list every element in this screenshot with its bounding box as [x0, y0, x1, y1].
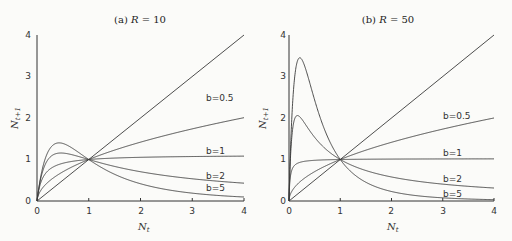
- label-b-5: b=5: [206, 183, 225, 193]
- curve-b-5: [289, 58, 494, 201]
- panel-b-y-ticks: 0 1 2 3 4: [280, 30, 286, 206]
- svg-text:4: 4: [280, 30, 286, 40]
- panel-a-y-label: Nt+1: [9, 107, 22, 130]
- svg-text:2: 2: [138, 206, 144, 216]
- svg-text:4: 4: [491, 206, 497, 216]
- svg-text:1: 1: [25, 154, 31, 164]
- panel-a-y-ticks: 0 1 2 3 4: [25, 30, 31, 206]
- svg-text:4: 4: [25, 30, 31, 40]
- svg-text:3: 3: [25, 71, 31, 81]
- curve-b-2: [289, 116, 494, 201]
- svg-text:0: 0: [280, 196, 286, 206]
- label-b-0.5: b=0.5: [443, 111, 471, 121]
- svg-text:2: 2: [388, 206, 394, 216]
- svg-text:1: 1: [337, 206, 343, 216]
- panel-a-title: (a) R = 10: [114, 14, 166, 25]
- svg-text:3: 3: [280, 71, 286, 81]
- svg-text:2: 2: [280, 113, 286, 123]
- curve-b-1: [289, 159, 494, 201]
- figure: (a) R = 10 0 1 2 3 4 0 1 2 3 4 Nt Nt+1 b…: [0, 0, 512, 241]
- svg-text:0: 0: [25, 196, 31, 206]
- label-b-2: b=2: [443, 174, 462, 184]
- panel-b: (b) R = 50 0 1 2 3 4 0 1 2 3 4 Nt Nt+1 b…: [257, 14, 497, 234]
- panel-a: (a) R = 10 0 1 2 3 4 0 1 2 3 4 Nt Nt+1 b…: [9, 14, 247, 234]
- svg-text:2: 2: [25, 113, 31, 123]
- panel-b-title: (b) R = 50: [362, 14, 414, 25]
- svg-text:0: 0: [34, 206, 40, 216]
- label-b-5: b=5: [443, 189, 462, 199]
- panel-b-x-label: Nt: [386, 221, 399, 234]
- panel-a-x-label: Nt: [137, 221, 150, 234]
- svg-text:4: 4: [241, 206, 247, 216]
- svg-text:3: 3: [189, 206, 195, 216]
- label-b-1: b=1: [206, 146, 225, 156]
- svg-text:3: 3: [440, 206, 446, 216]
- panel-b-y-label: Nt+1: [257, 107, 270, 130]
- svg-text:0: 0: [286, 206, 292, 216]
- svg-text:1: 1: [280, 154, 286, 164]
- label-b-2: b=2: [206, 171, 225, 181]
- svg-text:1: 1: [86, 206, 92, 216]
- label-b-1: b=1: [443, 148, 462, 158]
- label-b-0.5: b=0.5: [206, 93, 234, 103]
